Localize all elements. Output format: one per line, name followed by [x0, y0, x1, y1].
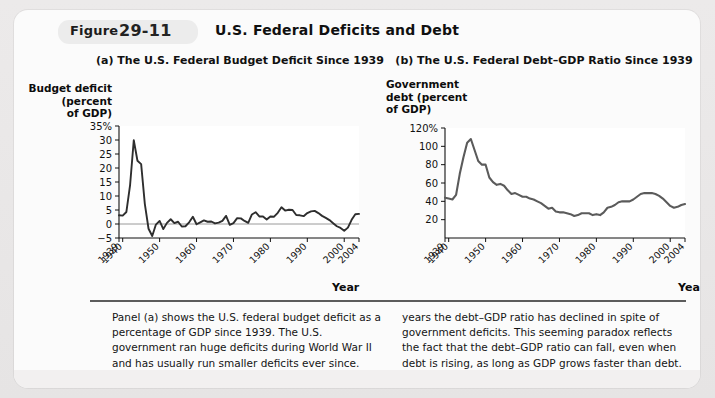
- panel-a-chart: −505101520253035%19391940195019601970198…: [14, 68, 374, 298]
- panel-a-title: (a) The U.S. Federal Budget Deficit Sinc…: [90, 54, 390, 67]
- svg-text:40: 40: [425, 196, 438, 207]
- page-background: Figure 29-11 U.S. Federal Deficits and D…: [0, 0, 715, 398]
- svg-text:1960: 1960: [173, 241, 198, 266]
- svg-text:120%: 120%: [409, 123, 438, 134]
- svg-text:20: 20: [99, 163, 112, 174]
- svg-text:1940: 1940: [99, 241, 124, 266]
- svg-text:−5: −5: [97, 233, 112, 244]
- svg-text:10: 10: [99, 191, 112, 202]
- card-bottom-edge: [14, 370, 700, 388]
- svg-text:15: 15: [99, 177, 112, 188]
- svg-text:1980: 1980: [573, 241, 598, 266]
- caption-right-text: years the debt–GDP ratio has declined in…: [402, 311, 682, 369]
- svg-text:1970: 1970: [210, 241, 235, 266]
- svg-text:1960: 1960: [499, 241, 524, 266]
- svg-text:30: 30: [99, 135, 112, 146]
- svg-text:20: 20: [425, 214, 438, 225]
- figure-card: Figure 29-11 U.S. Federal Deficits and D…: [14, 10, 700, 388]
- svg-text:80: 80: [425, 159, 438, 170]
- svg-text:25: 25: [99, 149, 112, 160]
- svg-text:60: 60: [425, 178, 438, 189]
- svg-text:5: 5: [106, 205, 112, 216]
- svg-text:0: 0: [106, 219, 112, 230]
- svg-text:1980: 1980: [247, 241, 272, 266]
- figure-header: Figure 29-11 U.S. Federal Deficits and D…: [14, 20, 700, 46]
- figure-label: Figure: [70, 23, 118, 38]
- figure-number: 29-11: [119, 21, 172, 40]
- svg-text:35%: 35%: [90, 121, 112, 132]
- svg-text:1990: 1990: [610, 241, 635, 266]
- panel-b-title: (b) The U.S. Federal Debt–GDP Ratio Sinc…: [394, 54, 694, 67]
- svg-text:1990: 1990: [284, 241, 309, 266]
- svg-text:100: 100: [419, 141, 438, 152]
- svg-text:1950: 1950: [136, 241, 161, 266]
- caption-divider: [90, 300, 686, 302]
- figure-title: U.S. Federal Deficits and Debt: [215, 22, 459, 38]
- svg-text:1970: 1970: [536, 241, 561, 266]
- svg-text:1950: 1950: [462, 241, 487, 266]
- panel-b-chart: 20406080100120%1939194019501960197019801…: [369, 68, 700, 298]
- svg-text:1940: 1940: [425, 241, 450, 266]
